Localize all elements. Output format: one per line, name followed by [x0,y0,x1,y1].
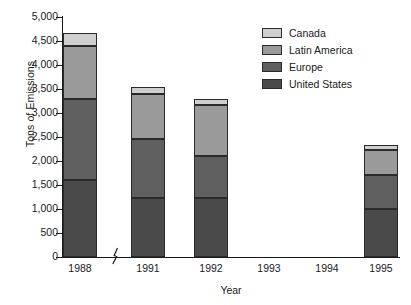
y-tick-mark [56,89,62,90]
y-tick-mark [56,17,62,18]
legend-item-latin-america: Latin America [262,41,353,58]
legend-item-canada: Canada [262,24,353,41]
bar-segment-canada [194,99,228,105]
chart-legend: CanadaLatin AmericaEuropeUnited States [262,24,353,92]
x-tick-label: 1992 [181,262,241,274]
y-tick-mark [56,113,62,114]
bar-segment-europe [364,175,398,209]
bar-segment-united-states [364,209,398,257]
y-tick-label: 500 [40,226,58,238]
legend-item-europe: Europe [262,58,353,75]
x-tick-label: 1993 [239,262,299,274]
y-tick-mark [56,233,62,234]
y-tick-label: 2,500 [32,130,58,142]
y-tick-label: 1,500 [32,178,58,190]
bar-segment-europe [194,156,228,198]
legend-swatch [262,62,282,72]
bar-segment-latin-america [63,46,97,99]
bar-segment-latin-america [131,94,165,140]
y-tick-label: 0 [52,250,58,262]
x-tick-label: 1991 [118,262,178,274]
legend-swatch [262,79,282,89]
bar-1988 [63,33,97,257]
legend-label: Latin America [289,44,353,56]
y-tick-label: 3,500 [32,82,58,94]
y-tick-label: 4,500 [32,34,58,46]
legend-item-united-states: United States [262,75,353,92]
y-tick-label: 3,000 [32,106,58,118]
y-tick-mark [56,209,62,210]
y-tick-mark [56,65,62,66]
y-tick-mark [56,41,62,42]
x-tick-label: 1995 [351,262,411,274]
x-axis-title: Year [62,284,400,296]
x-tick-label: 1988 [50,262,110,274]
bar-segment-canada [131,87,165,94]
legend-label: United States [289,78,352,90]
legend-swatch [262,28,282,38]
bar-segment-europe [63,99,97,181]
y-tick-label: 1,000 [32,202,58,214]
bar-1991 [131,87,165,257]
legend-label: Canada [289,27,326,39]
bar-1995 [364,145,398,257]
y-tick-label: 4,000 [32,58,58,70]
bar-segment-canada [364,145,398,150]
y-tick-label: 5,000 [32,10,58,22]
y-tick-mark [56,137,62,138]
bar-segment-united-states [63,180,97,257]
axis-break-icon [108,246,122,266]
bar-segment-canada [63,33,97,46]
y-tick-label: 2,000 [32,154,58,166]
bar-1992 [194,99,228,257]
bar-segment-europe [131,139,165,198]
legend-label: Europe [289,61,323,73]
x-tick-label: 1994 [297,262,357,274]
bar-segment-latin-america [194,105,228,156]
stacked-bar-chart: Tons of Emissions 05001,0001,5002,0002,5… [0,0,411,305]
y-tick-mark [56,185,62,186]
bar-segment-latin-america [364,150,398,175]
bar-segment-united-states [194,198,228,257]
y-tick-mark [56,161,62,162]
legend-swatch [262,45,282,55]
bar-segment-united-states [131,198,165,257]
